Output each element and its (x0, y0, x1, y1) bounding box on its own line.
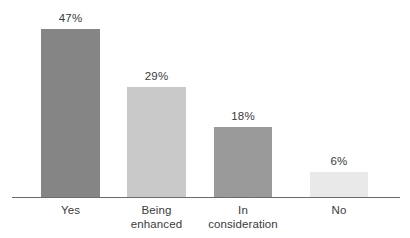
x-axis-label-line: enhanced (117, 218, 196, 232)
bar-rect-being-enhanced (127, 87, 186, 198)
x-axis-label-line: consideration (200, 218, 286, 232)
plot-area: 47% 29% 18% 6% (0, 0, 410, 198)
x-axis-label-in-consideration: In consideration (200, 204, 286, 231)
bar-value-label: 47% (59, 12, 83, 24)
bar-group-no: 6% (310, 0, 368, 198)
bar-value-label: 29% (145, 70, 169, 82)
x-axis-line (12, 197, 400, 198)
bar-value-label: 18% (231, 110, 255, 122)
bar-rect-no (310, 172, 368, 198)
x-axis-label-being-enhanced: Being enhanced (117, 204, 196, 231)
x-axis-label-line: Yes (41, 204, 100, 218)
bar-chart: 47% 29% 18% 6% Yes Being enhanced In con… (0, 0, 410, 238)
bar-group-being-enhanced: 29% (127, 0, 186, 198)
x-axis-label-line: Being (117, 204, 196, 218)
x-axis-label-yes: Yes (41, 204, 100, 218)
bar-rect-yes (41, 29, 100, 198)
bar-rect-in-consideration (214, 127, 272, 198)
bar-group-in-consideration: 18% (214, 0, 272, 198)
bar-group-yes: 47% (41, 0, 100, 198)
bar-value-label: 6% (330, 155, 347, 167)
x-axis-label-line: In (200, 204, 286, 218)
x-axis-label-no: No (310, 204, 368, 218)
x-axis-label-line: No (310, 204, 368, 218)
